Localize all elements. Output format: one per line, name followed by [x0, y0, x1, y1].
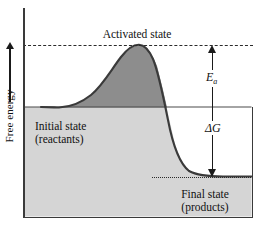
final-state-line-1: Final state [160, 188, 250, 201]
initial-state-label: Initial state (reactants) [35, 120, 86, 146]
y-axis-label: Free energy [3, 51, 15, 181]
final-state-label: Final state (products) [160, 188, 250, 214]
free-energy-change-label: ΔG [203, 121, 223, 135]
initial-state-line-2: (reactants) [35, 133, 86, 146]
activation-energy-arrowhead-icon [208, 45, 216, 53]
reaction-energy-diagram: Free energy Ea ΔG A [0, 0, 262, 230]
y-axis-group: Free energy [0, 18, 23, 213]
initial-state-line-1: Initial state [35, 120, 86, 133]
free-energy-change-symbol: ΔG [205, 121, 221, 135]
final-state-dotted-line [152, 177, 253, 178]
activation-energy-label: Ea [204, 70, 219, 87]
plot-area: Ea ΔG Activated state Initial state (rea… [23, 8, 253, 218]
activated-state-dashed-line [23, 45, 253, 46]
plot-frame-right [252, 107, 254, 218]
free-energy-change-arrowhead-icon [208, 169, 216, 177]
plot-frame-bottom [23, 217, 253, 219]
plot-frame-left [23, 8, 25, 218]
final-state-line-2: (products) [160, 201, 250, 214]
free-energy-change-arrow-shaft [212, 107, 213, 169]
activation-energy-subscript: a [213, 77, 217, 86]
activated-state-label: Activated state [82, 28, 192, 41]
